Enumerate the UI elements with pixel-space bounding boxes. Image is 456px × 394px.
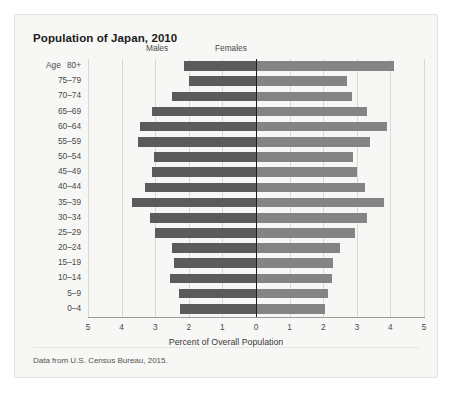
- chart-card: Population of Japan, 2010 Age Males Fema…: [14, 14, 438, 378]
- bar-male: [179, 289, 256, 299]
- age-group-label: 40–44: [58, 181, 81, 191]
- bar-male: [138, 137, 256, 147]
- age-group-label: 70–74: [58, 90, 81, 100]
- bar-male: [184, 61, 256, 71]
- age-group-label: 5–9: [67, 288, 81, 298]
- bar-male: [150, 213, 256, 223]
- bar-female: [256, 274, 332, 284]
- age-group-label: 35–39: [58, 197, 81, 207]
- bar-male: [154, 152, 256, 162]
- x-tick-label: 2: [321, 322, 326, 332]
- bar-female: [256, 228, 355, 238]
- age-group-label: 10–14: [58, 272, 81, 282]
- source-note: Data from U.S. Census Bureau, 2015.: [33, 356, 168, 365]
- x-tick-label: 2: [186, 322, 191, 332]
- bar-female: [256, 107, 367, 117]
- bar-female: [256, 289, 328, 299]
- bar-female: [256, 76, 347, 86]
- x-tick-label: 5: [422, 322, 427, 332]
- bar-male: [152, 107, 256, 117]
- footer-divider: [33, 347, 419, 348]
- age-group-label: 25–29: [58, 227, 81, 237]
- bar-male: [180, 304, 256, 314]
- bar-male: [140, 122, 256, 132]
- population-pyramid-plot: 80+75–7970–7465–6960–6455–5950–5445–4940…: [88, 59, 424, 317]
- bar-male: [172, 92, 256, 102]
- x-tick-label: 4: [119, 322, 124, 332]
- age-group-label: 20–24: [58, 242, 81, 252]
- bar-female: [256, 61, 394, 71]
- bar-female: [256, 258, 333, 268]
- legend-females: Females: [215, 43, 247, 53]
- age-group-label: 0–4: [67, 303, 81, 313]
- bar-male: [174, 258, 256, 268]
- x-tick-label: 1: [220, 322, 225, 332]
- age-group-label: 15–19: [58, 257, 81, 267]
- bar-female: [256, 152, 353, 162]
- age-group-label: 75–79: [58, 75, 81, 85]
- age-group-label: 60–64: [58, 121, 81, 131]
- age-group-label: 30–34: [58, 212, 81, 222]
- x-tick-label: 5: [86, 322, 91, 332]
- x-axis-line: [88, 317, 425, 318]
- bar-female: [256, 198, 384, 208]
- age-group-label: 55–59: [58, 136, 81, 146]
- bar-male: [170, 274, 256, 284]
- age-group-label: 50–54: [58, 151, 81, 161]
- x-tick-label: 0: [254, 322, 259, 332]
- bar-male: [145, 183, 256, 193]
- age-group-label: 80+: [67, 60, 81, 70]
- bar-male: [132, 198, 256, 208]
- age-group-label: 65–69: [58, 106, 81, 116]
- bar-female: [256, 122, 387, 132]
- bar-female: [256, 167, 357, 177]
- legend-males: Males: [146, 43, 168, 53]
- age-group-label: 45–49: [58, 166, 81, 176]
- age-axis-header: Age: [46, 60, 61, 70]
- bar-female: [256, 183, 365, 193]
- x-tick-label: 3: [153, 322, 158, 332]
- bar-male: [155, 228, 256, 238]
- x-axis-label: Percent of Overall Population: [15, 337, 437, 347]
- bar-male: [172, 243, 256, 253]
- bar-female: [256, 243, 340, 253]
- bar-male: [152, 167, 256, 177]
- bar-female: [256, 92, 352, 102]
- bar-female: [256, 304, 325, 314]
- bar-female: [256, 213, 367, 223]
- gridline: [424, 59, 425, 317]
- x-tick-label: 1: [287, 322, 292, 332]
- zero-axis-line: [256, 59, 257, 317]
- x-tick-label: 4: [388, 322, 393, 332]
- x-tick-label: 3: [354, 322, 359, 332]
- bar-male: [189, 76, 256, 86]
- bar-female: [256, 137, 370, 147]
